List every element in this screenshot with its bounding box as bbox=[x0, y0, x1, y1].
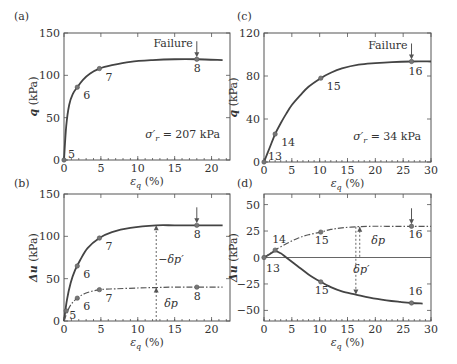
y-tick-label: 40 bbox=[246, 113, 260, 126]
y-tick-label: 120 bbox=[239, 27, 260, 40]
y-tick-label: 100 bbox=[39, 230, 60, 243]
data-point bbox=[319, 76, 323, 80]
data-point bbox=[75, 296, 79, 300]
y-axis-label: q (kPa) bbox=[227, 78, 240, 118]
y-tick-label: 80 bbox=[246, 70, 260, 83]
point-label: 8 bbox=[194, 290, 201, 303]
failure-arrow-head bbox=[409, 219, 414, 224]
y-tick-label: 0 bbox=[253, 252, 260, 265]
data-point bbox=[75, 85, 79, 89]
y-tick-label: 25 bbox=[246, 225, 260, 238]
failure-arrow-head bbox=[194, 218, 199, 223]
x-tick-label: 10 bbox=[131, 162, 145, 175]
y-tick-label: 0 bbox=[253, 156, 260, 169]
y-tick-label: −25 bbox=[237, 278, 260, 291]
y-tick-label: 100 bbox=[39, 69, 60, 82]
data-point bbox=[97, 236, 101, 240]
x-axis-label: εq (%) bbox=[130, 336, 164, 351]
x-tick-label: 20 bbox=[368, 164, 382, 177]
data-point bbox=[409, 59, 413, 63]
point-label: 8 bbox=[194, 62, 201, 75]
x-tick-label: 25 bbox=[396, 323, 410, 336]
delta-annotation: δp bbox=[164, 297, 178, 310]
x-tick-label: 10 bbox=[313, 323, 327, 336]
x-tick-label: 5 bbox=[288, 323, 295, 336]
x-tick-label: 15 bbox=[341, 323, 355, 336]
point-label: 13 bbox=[268, 150, 282, 163]
x-tick-label: 15 bbox=[341, 164, 355, 177]
data-point bbox=[75, 264, 79, 268]
point-label: 14 bbox=[272, 233, 286, 246]
panel-a: (a)05101520050100150εq (%)q (kPa)5678Fai… bbox=[14, 10, 230, 190]
x-tick-label: 0 bbox=[61, 162, 68, 175]
point-label: 15 bbox=[327, 80, 341, 93]
point-label: 6 bbox=[83, 300, 90, 313]
panel-b: (b)05101520050100150εq (%)Δu (kPa)567867… bbox=[14, 177, 230, 351]
x-tick-label: 30 bbox=[424, 323, 438, 336]
point-label: 16 bbox=[409, 228, 423, 241]
point-label: 7 bbox=[105, 71, 112, 84]
x-tick-label: 0 bbox=[61, 323, 68, 336]
panel-label: (d) bbox=[237, 177, 253, 190]
y-axis-label: Δu (kPa) bbox=[27, 233, 40, 283]
x-tick-label: 10 bbox=[131, 323, 145, 336]
point-label: 15 bbox=[315, 284, 329, 297]
data-point bbox=[64, 309, 68, 313]
x-tick-label: 30 bbox=[424, 164, 438, 177]
x-tick-label: 5 bbox=[288, 164, 295, 177]
failure-label: Failure bbox=[153, 37, 192, 50]
y-tick-label: −50 bbox=[237, 304, 260, 317]
data-point bbox=[262, 160, 266, 164]
y-tick-label: 0 bbox=[53, 315, 60, 328]
y-tick-label: 150 bbox=[39, 27, 60, 40]
failure-arrow-head bbox=[409, 54, 414, 59]
delta-annotation: δp bbox=[371, 234, 385, 247]
point-label: 7 bbox=[105, 292, 112, 305]
series-line-dashdot bbox=[264, 226, 431, 257]
x-axis-label: εq (%) bbox=[331, 177, 365, 192]
y-tick-label: 150 bbox=[39, 188, 60, 201]
y-tick-label: 50 bbox=[46, 112, 60, 125]
series-line-solid bbox=[264, 251, 423, 303]
x-tick-label: 0 bbox=[261, 164, 268, 177]
point-label: 16 bbox=[409, 65, 423, 78]
y-axis-label: Δu (kPa) bbox=[227, 233, 240, 283]
point-label: 7 bbox=[105, 240, 112, 253]
x-tick-label: 20 bbox=[205, 323, 219, 336]
x-tick-label: 15 bbox=[168, 323, 182, 336]
data-point bbox=[62, 158, 66, 162]
data-point bbox=[409, 301, 413, 305]
data-point bbox=[273, 132, 277, 136]
delta-annotation: δp′ bbox=[353, 263, 370, 276]
point-label: 8 bbox=[194, 228, 201, 241]
data-point bbox=[97, 66, 101, 70]
x-tick-label: 5 bbox=[97, 162, 104, 175]
y-tick-label: 50 bbox=[246, 199, 260, 212]
delta-annotation: −δp′ bbox=[158, 253, 184, 266]
data-point bbox=[195, 223, 199, 227]
x-tick-label: 0 bbox=[261, 323, 268, 336]
data-point bbox=[195, 285, 199, 289]
panel-label: (a) bbox=[14, 10, 29, 23]
point-label: 13 bbox=[266, 262, 280, 275]
data-point bbox=[195, 57, 199, 61]
x-tick-label: 15 bbox=[168, 162, 182, 175]
arrow-head bbox=[357, 227, 362, 232]
failure-arrow-head bbox=[194, 52, 199, 57]
y-tick-label: 0 bbox=[53, 154, 60, 167]
x-tick-label: 10 bbox=[313, 164, 327, 177]
point-label: 6 bbox=[83, 89, 90, 102]
y-axis-label: q (kPa) bbox=[27, 77, 40, 117]
confining-stress-annotation: σ′r = 207 kPa bbox=[145, 128, 220, 143]
point-label: 16 bbox=[409, 285, 423, 298]
arrow-head bbox=[154, 288, 159, 293]
x-axis-label: εq (%) bbox=[331, 336, 365, 351]
point-label: 5 bbox=[69, 309, 76, 322]
panel-d: (d)051015202530−50−2502550εq (%)Δu (kPa)… bbox=[227, 177, 438, 351]
data-point bbox=[97, 287, 101, 291]
point-label: 14 bbox=[281, 136, 295, 149]
x-tick-label: 20 bbox=[368, 323, 382, 336]
point-label: 5 bbox=[68, 148, 75, 161]
confining-stress-annotation: σ′r = 34 kPa bbox=[353, 130, 421, 145]
data-point bbox=[262, 255, 266, 259]
